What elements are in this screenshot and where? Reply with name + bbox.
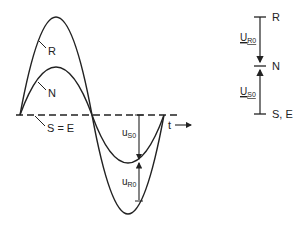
phasor-label-se: S, E — [272, 108, 293, 120]
label-s-e: S = E — [47, 122, 74, 134]
label-time: t — [168, 119, 171, 131]
phasor-label-n: N — [272, 60, 280, 72]
phasor-label-ur0: UR0 — [240, 32, 256, 44]
label-ur0: uR0 — [122, 176, 137, 188]
label-n: N — [48, 87, 56, 99]
diagram-canvas: R N S = E uS0 uR0 t R N S, E UR0 US0 — [0, 0, 305, 225]
leader-r — [38, 40, 46, 48]
phasor-label-r: R — [272, 11, 280, 23]
phasor-label-us0: US0 — [240, 86, 256, 98]
leader-n — [38, 82, 46, 90]
label-us0: uS0 — [122, 127, 136, 139]
leader-se — [35, 116, 45, 126]
label-r: R — [48, 45, 56, 57]
